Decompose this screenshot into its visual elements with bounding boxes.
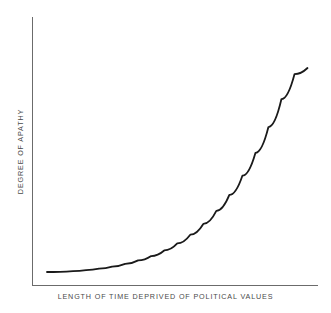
x-axis-label: LENGTH OF TIME DEPRIVED OF POLITICAL VAL…: [0, 292, 331, 301]
y-axis-label-container: DEGREE OF APATHY: [0, 0, 40, 313]
plot-area: [0, 0, 331, 313]
y-axis-label: DEGREE OF APATHY: [16, 72, 25, 232]
chart-figure: DEGREE OF APATHY LENGTH OF TIME DEPRIVED…: [0, 0, 331, 313]
chart-background: [0, 0, 331, 313]
